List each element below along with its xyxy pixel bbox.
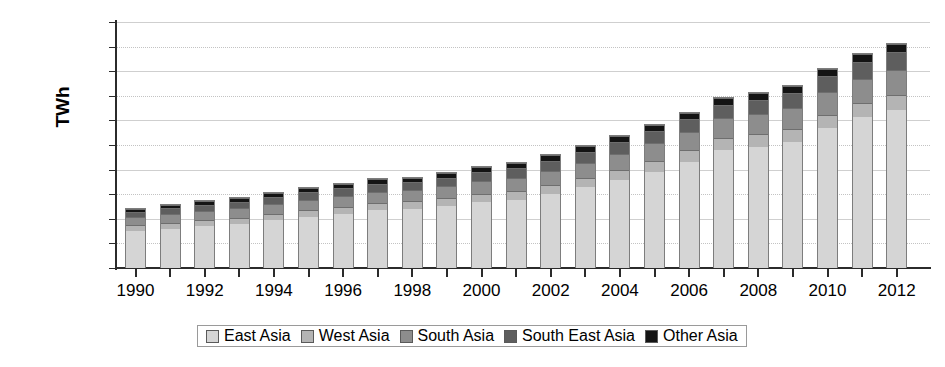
bar-segment xyxy=(576,163,595,178)
bar-segment xyxy=(126,217,145,225)
bar-segment xyxy=(507,178,526,191)
bar-segment xyxy=(783,142,802,268)
bar-segment xyxy=(437,178,456,187)
legend-item[interactable]: Other Asia xyxy=(645,328,738,344)
y-axis-title: TWh xyxy=(52,62,74,152)
legend-item[interactable]: South East Asia xyxy=(504,328,635,344)
bar-segment xyxy=(264,220,283,268)
bar-segment xyxy=(403,190,422,201)
x-tick-mark xyxy=(342,269,344,277)
bar-segment xyxy=(472,181,491,194)
bar-segment xyxy=(334,214,353,268)
stacked-bar-chart: TWh 010002000300040005000600070008000900… xyxy=(0,0,945,367)
legend-label: East Asia xyxy=(224,328,291,344)
x-tick-mark xyxy=(584,269,586,277)
x-tick-mark xyxy=(515,269,517,277)
x-tick-label: 2008 xyxy=(723,281,793,301)
bar xyxy=(852,53,873,268)
x-tick-label: 2004 xyxy=(585,281,655,301)
y-tick-mark xyxy=(109,96,117,97)
bar-segment xyxy=(195,205,214,212)
x-tick-mark xyxy=(377,269,379,277)
x-tick-mark xyxy=(757,269,759,277)
y-tick-mark xyxy=(109,145,117,146)
bar xyxy=(748,92,769,268)
bar-segment xyxy=(264,197,283,204)
gridline xyxy=(116,22,930,23)
bar-segment xyxy=(576,152,595,163)
legend-item[interactable]: West Asia xyxy=(301,328,390,344)
bar-segment xyxy=(610,142,629,154)
bar-segment xyxy=(680,119,699,132)
x-tick-mark xyxy=(273,269,275,277)
bar-segment xyxy=(749,93,768,100)
bar-segment xyxy=(368,210,387,268)
legend-label: South East Asia xyxy=(522,328,635,344)
bar-segment xyxy=(714,150,733,268)
bar xyxy=(436,172,457,268)
legend-swatch-icon xyxy=(206,330,219,343)
bar-segment xyxy=(299,192,318,200)
bar-segment xyxy=(230,224,249,268)
legend-swatch-icon xyxy=(645,330,658,343)
y-tick-mark xyxy=(109,120,117,121)
bar-segment xyxy=(749,134,768,147)
bar-segment xyxy=(680,162,699,268)
x-tick-label: 1996 xyxy=(308,281,378,301)
bar-segment xyxy=(403,201,422,209)
y-tick-mark xyxy=(109,22,117,23)
x-tick-mark xyxy=(654,269,656,277)
gridline xyxy=(116,120,930,121)
bar-segment xyxy=(403,209,422,268)
bar xyxy=(298,187,319,268)
y-tick-mark xyxy=(109,219,117,220)
gridline xyxy=(116,145,930,147)
bar xyxy=(575,145,596,268)
bar-segment xyxy=(749,114,768,134)
bar xyxy=(229,197,250,268)
bar xyxy=(367,178,388,268)
bar-segment xyxy=(299,210,318,217)
bar-segment xyxy=(368,203,387,210)
bar-segment xyxy=(818,69,837,76)
bar xyxy=(644,124,665,268)
x-tick-label: 2010 xyxy=(793,281,863,301)
gridline xyxy=(116,96,930,98)
bar-segment xyxy=(403,182,422,190)
bar-segment xyxy=(230,202,249,209)
bar xyxy=(160,204,181,268)
bar-segment xyxy=(818,76,837,92)
legend-item[interactable]: East Asia xyxy=(206,328,291,344)
bar-segment xyxy=(472,194,491,202)
bar-segment xyxy=(507,191,526,200)
bar-segment xyxy=(818,115,837,129)
bar-segment xyxy=(507,168,526,178)
x-tick-mark xyxy=(827,269,829,277)
x-tick-mark xyxy=(619,269,621,277)
bar-segment xyxy=(853,62,872,79)
bar-segment xyxy=(437,206,456,268)
bar-segment xyxy=(853,54,872,62)
bar-segment xyxy=(645,143,664,160)
bar-segment xyxy=(783,129,802,142)
bar-segment xyxy=(334,207,353,214)
bar-segment xyxy=(195,226,214,268)
bar-segment xyxy=(507,200,526,268)
bar-segment xyxy=(576,187,595,268)
x-tick-mark xyxy=(723,269,725,277)
bar xyxy=(713,97,734,268)
bar-segment xyxy=(541,161,560,171)
x-tick-label: 1994 xyxy=(239,281,309,301)
x-tick-label: 2012 xyxy=(862,281,932,301)
bar-segment xyxy=(230,208,249,217)
bar-segment xyxy=(887,95,906,110)
legend-label: Other Asia xyxy=(663,328,738,344)
bar xyxy=(263,192,284,268)
y-tick-mark xyxy=(109,71,117,72)
plot-area xyxy=(116,22,930,268)
legend-item[interactable]: South Asia xyxy=(400,328,495,344)
bar xyxy=(194,200,215,268)
bar xyxy=(782,85,803,268)
gridline xyxy=(116,71,930,72)
bar xyxy=(125,208,146,268)
